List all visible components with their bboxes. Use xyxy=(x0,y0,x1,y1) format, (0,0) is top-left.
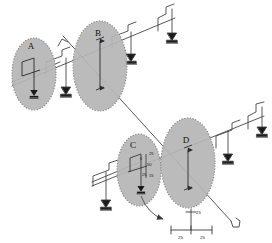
dim-label-c-low: 25 xyxy=(142,172,147,177)
drawing-canvas: A B C 25 50 xyxy=(0,0,272,243)
detail-region-b: B xyxy=(73,21,127,111)
detail-label-b: B xyxy=(95,28,101,38)
technical-drawing: A B C 25 50 xyxy=(0,0,272,243)
detail-region-d: D xyxy=(161,118,215,208)
dim-label-c-mid: 50 xyxy=(147,162,152,167)
detail-ellipse-c xyxy=(117,134,161,206)
dim-label-c-top: 25 xyxy=(149,151,154,156)
dim-label-c-low2: 15 xyxy=(149,173,154,178)
detail-label-a: A xyxy=(28,41,35,51)
detail-label-c: C xyxy=(130,140,136,150)
canvas-background xyxy=(0,0,272,243)
t-detail-label-left: 25 xyxy=(178,235,183,240)
t-detail-label-vertical: 25 xyxy=(196,210,201,215)
detail-region-c: C 25 50 25 15 xyxy=(117,134,161,206)
t-detail-label-right: 25 xyxy=(200,235,205,240)
detail-label-d: D xyxy=(183,135,190,145)
detail-region-a: A xyxy=(12,38,56,110)
